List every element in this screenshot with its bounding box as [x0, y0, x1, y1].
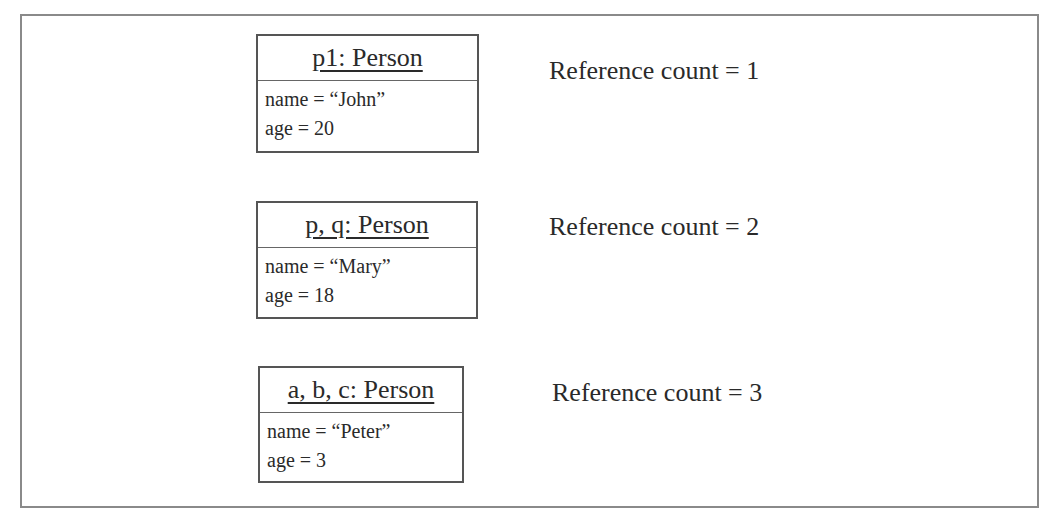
reference-count-label: Reference count = 1 [549, 56, 759, 86]
reference-count-label: Reference count = 2 [549, 212, 759, 242]
object-box-pq: p, q: Person name = “Mary” age = 18 [256, 201, 478, 319]
object-header: a, b, c: Person [260, 368, 462, 413]
attribute-name: name = “Mary” [265, 252, 476, 281]
attribute-age: age = 18 [265, 281, 476, 310]
object-attributes: name = “Peter” age = 3 [260, 413, 462, 475]
object-title: a, b, c: Person [288, 375, 435, 404]
reference-count-label: Reference count = 3 [552, 378, 762, 408]
attribute-age: age = 20 [265, 114, 477, 143]
object-box-p1: p1: Person name = “John” age = 20 [256, 34, 479, 153]
object-attributes: name = “John” age = 20 [258, 81, 477, 143]
object-header: p1: Person [258, 36, 477, 81]
attribute-name: name = “John” [265, 85, 477, 114]
object-box-abc: a, b, c: Person name = “Peter” age = 3 [258, 366, 464, 483]
object-header: p, q: Person [258, 203, 476, 248]
attribute-name: name = “Peter” [267, 417, 462, 446]
diagram-frame [20, 14, 1039, 508]
object-title: p, q: Person [305, 210, 429, 239]
attribute-age: age = 3 [267, 446, 462, 475]
object-attributes: name = “Mary” age = 18 [258, 248, 476, 310]
object-title: p1: Person [312, 43, 423, 72]
